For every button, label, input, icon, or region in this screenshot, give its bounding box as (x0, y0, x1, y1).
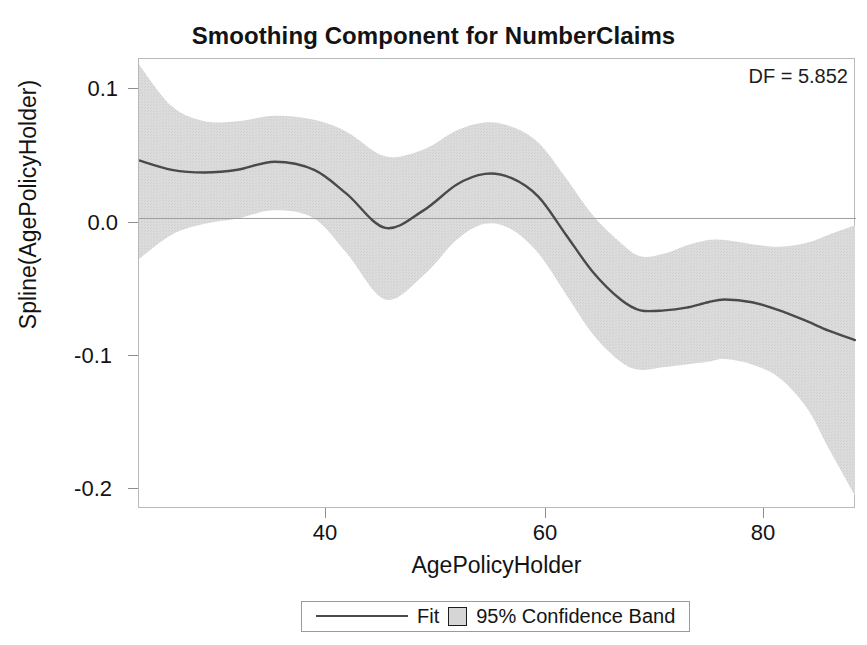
chart-legend: Fit 95% Confidence Band (301, 601, 690, 632)
y-tick-label-0: 0.1 (28, 76, 118, 102)
x-tick-mark-1 (545, 508, 546, 518)
plot-svg (139, 59, 856, 509)
legend-label-confidence-band: 95% Confidence Band (476, 606, 675, 626)
x-tick-mark-0 (325, 508, 326, 518)
df-annotation: DF = 5.852 (748, 65, 848, 88)
chart-title: Smoothing Component for NumberClaims (0, 22, 867, 50)
x-axis-title: AgePolicyHolder (138, 552, 855, 579)
y-tick-mark-1 (128, 222, 138, 223)
y-tick-mark-0 (128, 88, 138, 89)
x-tick-label-2: 80 (723, 520, 803, 546)
y-tick-label-1: 0.0 (28, 210, 118, 236)
y-tick-mark-3 (128, 488, 138, 489)
x-tick-label-0: 40 (285, 520, 365, 546)
confidence-band-swatch-icon (448, 607, 467, 626)
x-tick-label-1: 60 (505, 520, 585, 546)
y-tick-label-3: -0.2 (22, 476, 112, 502)
plot-area: DF = 5.852 (138, 58, 855, 508)
y-tick-mark-2 (128, 355, 138, 356)
fit-line-swatch-icon (316, 615, 408, 617)
chart-canvas: Smoothing Component for NumberClaims Spl… (0, 0, 867, 645)
x-tick-mark-2 (763, 508, 764, 518)
confidence-band (139, 64, 855, 495)
legend-label-fit: Fit (417, 606, 439, 626)
y-tick-label-2: -0.1 (22, 343, 112, 369)
